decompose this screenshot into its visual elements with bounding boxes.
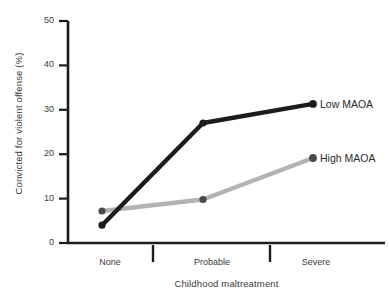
y-axis-title: Convicted for violent offense (%) bbox=[13, 24, 24, 224]
y-tick-label-50: 50 bbox=[28, 16, 54, 25]
series-label-high-maoa: High MAOA bbox=[320, 153, 375, 164]
series-label-low-maoa: Low MAOA bbox=[320, 99, 373, 110]
series-line-high-maoa bbox=[102, 158, 313, 211]
x-category-label-none: None bbox=[72, 258, 148, 267]
y-tick-label-20: 20 bbox=[28, 149, 54, 158]
x-category-label-probable: Probable bbox=[165, 258, 259, 267]
x-category-label-severe: Severe bbox=[278, 258, 354, 267]
y-tick-label-0: 0 bbox=[28, 238, 54, 247]
y-tick-label-30: 30 bbox=[28, 105, 54, 114]
y-tick-label-40: 40 bbox=[28, 60, 54, 69]
chart-canvas bbox=[0, 0, 389, 299]
x-axis-title: Childhood maltreatment bbox=[68, 278, 385, 289]
chart-figure: 50 40 30 20 10 0 Convicted for violent o… bbox=[0, 0, 389, 299]
y-tick-marks bbox=[59, 21, 68, 243]
y-tick-label-10: 10 bbox=[28, 194, 54, 203]
